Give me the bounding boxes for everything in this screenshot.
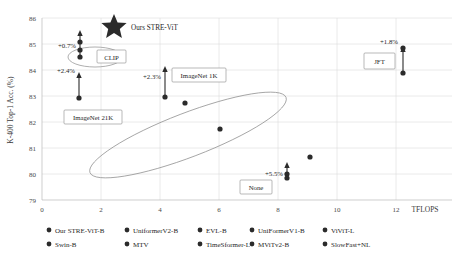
legend-item-evl-b: EVL-B xyxy=(198,227,227,235)
legend-swatch-icon xyxy=(125,242,130,247)
x-tick: 4 xyxy=(158,206,162,214)
legend-swatch-icon xyxy=(125,228,130,233)
legend-item-our-stre-vit-b: Our STRE-ViT-B xyxy=(47,227,105,235)
y-tick: 83 xyxy=(29,93,37,101)
legend-label: UniFormerV1-B xyxy=(258,227,305,235)
legend-label: SlowFast+NL xyxy=(331,241,370,249)
delta-label-in1k: +2.3% xyxy=(143,73,161,80)
x-tick: 6 xyxy=(217,206,221,214)
y-tick: 79 xyxy=(29,197,37,205)
legend-item-vivit-l: ViViT-L xyxy=(323,227,355,235)
arrow-in1k xyxy=(162,66,167,97)
star-marker xyxy=(101,14,126,38)
legend-item-mtv: MTV xyxy=(125,241,149,249)
x-axis-title: TFLOPS xyxy=(411,205,438,214)
legend-swatch-icon xyxy=(198,242,203,247)
y-tick: 82 xyxy=(29,119,37,127)
delta-label-clip: +0.7% xyxy=(58,42,76,49)
scatter-chart: 86 85 84 83 82 81 80 79 0 2 4 6 8 10 12 … xyxy=(0,0,467,258)
x-axis-ticks: 0 2 4 6 8 10 12 xyxy=(40,206,400,214)
data-point-in21k-a xyxy=(182,100,187,105)
legend-swatch-icon xyxy=(250,228,255,233)
legend-swatch-icon xyxy=(250,242,255,247)
legend-swatch-icon xyxy=(198,228,203,233)
y-tick: 80 xyxy=(29,171,37,179)
x-tick: 8 xyxy=(276,206,280,214)
box-imagenet-21k-label: ImageNet 21K xyxy=(73,114,113,121)
delta-label-in1k-left: +2.4% xyxy=(57,67,75,74)
data-point-mid xyxy=(217,126,222,131)
y-axis-title: K-400 Top-1 Acc. (%) xyxy=(6,76,15,144)
box-imagenet-1k-label: ImageNet 1K xyxy=(181,72,218,79)
arrow-jft xyxy=(400,46,405,73)
legend-swatch-icon xyxy=(47,242,52,247)
legend-item-timesformer-l: TimeSformer-L xyxy=(198,241,250,249)
legend-swatch-icon xyxy=(47,228,52,233)
box-jft-label: JFT xyxy=(374,58,385,65)
y-tick: 86 xyxy=(29,15,37,23)
legend-item-mvitv2-b: MViTv2-B xyxy=(250,241,290,249)
box-imagenet-21k: ImageNet 21K xyxy=(64,110,122,124)
legend-label: MTV xyxy=(133,241,149,249)
delta-label-jft: +1.8% xyxy=(380,38,398,45)
box-clip: CLIP xyxy=(97,50,126,63)
box-none: None xyxy=(240,180,272,194)
y-tick: 84 xyxy=(29,67,37,75)
legend-label: ViViT-L xyxy=(331,227,354,235)
x-tick: 12 xyxy=(393,206,401,214)
legend-swatch-icon xyxy=(323,242,328,247)
box-none-label: None xyxy=(249,184,264,191)
x-tick: 10 xyxy=(334,206,342,214)
legend-label: Swin-B xyxy=(55,241,77,249)
legend-swatch-icon xyxy=(323,228,328,233)
legend-label: TimeSformer-L xyxy=(206,241,250,249)
box-jft: JFT xyxy=(364,53,395,69)
y-tick: 85 xyxy=(29,41,37,49)
legend-item-uniformerv1-b: UniFormerV1-B xyxy=(250,227,305,235)
data-point-low-right xyxy=(307,154,312,159)
arrow-in1k-left xyxy=(76,72,81,98)
grid-vertical xyxy=(101,18,396,200)
ellipse-imagenet-21k-group xyxy=(82,77,294,193)
chart-root: 86 85 84 83 82 81 80 79 0 2 4 6 8 10 12 … xyxy=(0,0,467,258)
legend-label: EVL-B xyxy=(206,227,227,235)
x-tick: 2 xyxy=(99,206,103,214)
delta-label-none: +5.5% xyxy=(265,170,283,177)
y-tick: 81 xyxy=(29,145,37,153)
legend-item-uniformerv2-b: UniformerV2-B xyxy=(125,227,179,235)
legend: Our STRE-ViT-B UniformerV2-B EVL-B UniFo… xyxy=(47,227,371,249)
legend-label: UniformerV2-B xyxy=(133,227,178,235)
star-marker-label: Ours STRE-ViT xyxy=(131,24,178,32)
x-tick: 0 xyxy=(40,206,44,214)
legend-label: Our STRE-ViT-B xyxy=(55,227,105,235)
legend-item-slowfast-nl: SlowFast+NL xyxy=(323,241,371,249)
box-clip-label: CLIP xyxy=(104,54,119,61)
legend-item-swin-b: Swin-B xyxy=(47,241,77,249)
legend-label: MViTv2-B xyxy=(258,241,289,249)
y-axis-ticks: 86 85 84 83 82 81 80 79 xyxy=(29,15,37,205)
box-imagenet-1k: ImageNet 1K xyxy=(172,68,226,82)
